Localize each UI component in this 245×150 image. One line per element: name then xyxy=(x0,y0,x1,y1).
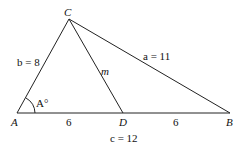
vertex-d-label: D xyxy=(118,116,127,128)
side-a-label: a = 11 xyxy=(143,50,170,62)
side-cb xyxy=(69,19,230,113)
vertex-b-label: B xyxy=(226,116,233,128)
triangle-diagram: C A D B b = 8 a = 11 m A° 6 6 c = 12 xyxy=(0,0,245,150)
segment-db-label: 6 xyxy=(173,116,179,128)
median-cd xyxy=(69,19,123,113)
median-label: m xyxy=(101,65,109,77)
vertex-c-label: C xyxy=(64,6,72,18)
side-b-label: b = 8 xyxy=(17,56,40,68)
vertex-a-label: A xyxy=(10,116,18,128)
side-c-label: c = 12 xyxy=(110,132,138,144)
angle-a-arc xyxy=(26,98,35,113)
segment-ad-label: 6 xyxy=(66,116,72,128)
angle-a-label: A° xyxy=(36,97,48,109)
